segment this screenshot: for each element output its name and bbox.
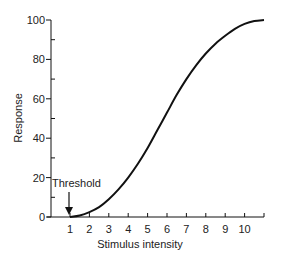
- x-tick-label: 1: [67, 223, 73, 235]
- y-tick-label: 40: [33, 132, 45, 144]
- threshold-arrow-icon: [65, 207, 73, 215]
- y-tick-label: 20: [33, 172, 45, 184]
- x-tick-label: 9: [222, 223, 228, 235]
- y-tick-label: 100: [27, 14, 45, 26]
- x-tick-label: 4: [125, 223, 131, 235]
- y-tick-label: 0: [39, 211, 45, 223]
- y-tick-label: 80: [33, 53, 45, 65]
- chart-container: 02040608010012345678910 Threshold Stimul…: [0, 0, 284, 261]
- x-tick-label: 3: [106, 223, 112, 235]
- y-tick-label: 60: [33, 93, 45, 105]
- x-tick-label: 10: [238, 223, 250, 235]
- x-tick-label: 8: [203, 223, 209, 235]
- axes: 02040608010012345678910: [27, 14, 264, 235]
- y-axis-label: Response: [12, 93, 24, 143]
- x-axis-label: Stimulus intensity: [97, 238, 183, 250]
- x-tick-label: 2: [86, 223, 92, 235]
- threshold-label: Threshold: [52, 177, 101, 189]
- x-tick-label: 6: [164, 223, 170, 235]
- response-curve-chart: 02040608010012345678910 Threshold Stimul…: [0, 0, 284, 261]
- x-tick-label: 5: [145, 223, 151, 235]
- x-tick-label: 7: [183, 223, 189, 235]
